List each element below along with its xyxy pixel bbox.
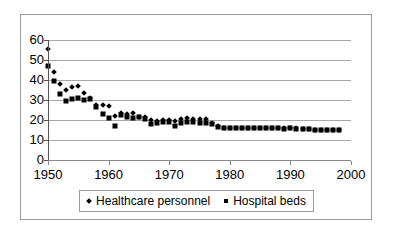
y-tick-mark xyxy=(44,120,48,121)
x-tick-label: 1950 xyxy=(34,168,63,182)
y-tick-label: 50 xyxy=(30,53,44,66)
chart-legend: Healthcare personnelHospital beds xyxy=(79,190,314,212)
data-point-square xyxy=(112,124,117,129)
data-point-diamond xyxy=(57,81,63,87)
y-gridline xyxy=(48,60,351,61)
y-gridline xyxy=(48,80,351,81)
data-point-square xyxy=(197,121,202,126)
x-tick-mark xyxy=(169,161,170,165)
legend-square-icon xyxy=(224,199,228,203)
legend-entry: Healthcare personnel xyxy=(87,195,210,207)
y-tick-mark xyxy=(44,60,48,61)
data-point-square xyxy=(300,127,305,132)
data-point-square xyxy=(118,113,123,118)
data-point-diamond xyxy=(75,83,81,89)
y-tick-mark xyxy=(44,140,48,141)
data-point-square xyxy=(282,127,287,132)
data-point-square xyxy=(106,116,111,121)
data-point-square xyxy=(52,79,57,84)
data-point-square xyxy=(318,128,323,133)
y-tick-label: 40 xyxy=(30,73,44,86)
legend-diamond-icon xyxy=(86,198,92,204)
y-gridline xyxy=(48,40,351,41)
x-tick-mark xyxy=(109,161,110,165)
data-point-square xyxy=(209,122,214,127)
data-point-diamond xyxy=(82,90,88,96)
data-point-square xyxy=(149,122,154,127)
data-point-square xyxy=(245,126,250,131)
x-tick-mark xyxy=(351,161,352,165)
data-point-square xyxy=(130,116,135,121)
y-axis-labels: 0102030405060 xyxy=(0,0,44,235)
legend-label: Hospital beds xyxy=(233,195,306,207)
x-tick-label: 1980 xyxy=(215,168,244,182)
data-point-square xyxy=(142,117,147,122)
data-point-square xyxy=(233,126,238,131)
data-point-square xyxy=(94,105,99,110)
x-tick-label: 1970 xyxy=(155,168,184,182)
data-point-diamond xyxy=(112,113,118,119)
x-axis-line xyxy=(48,160,351,161)
data-point-square xyxy=(227,126,232,131)
x-tick-label: 1990 xyxy=(276,168,305,182)
legend-entry: Hospital beds xyxy=(224,195,306,207)
y-gridline xyxy=(48,100,351,101)
data-point-diamond xyxy=(51,69,57,75)
data-point-square xyxy=(136,115,141,120)
data-point-diamond xyxy=(100,102,106,108)
x-tick-mark xyxy=(230,161,231,165)
data-point-square xyxy=(276,126,281,131)
y-tick-label: 30 xyxy=(30,93,44,106)
data-point-diamond xyxy=(106,103,112,109)
data-point-square xyxy=(288,126,293,131)
data-point-square xyxy=(185,120,190,125)
data-point-square xyxy=(336,128,341,133)
y-tick-mark xyxy=(44,80,48,81)
data-point-square xyxy=(124,115,129,120)
legend-label: Healthcare personnel xyxy=(96,195,210,207)
y-gridline xyxy=(48,140,351,141)
data-point-square xyxy=(173,124,178,129)
data-point-square xyxy=(258,126,263,131)
data-point-square xyxy=(324,128,329,133)
y-tick-label: 20 xyxy=(30,113,44,126)
data-point-square xyxy=(155,121,160,126)
data-point-square xyxy=(294,127,299,132)
x-tick-mark xyxy=(48,161,49,165)
data-point-square xyxy=(312,128,317,133)
data-point-square xyxy=(88,97,93,102)
y-axis-line xyxy=(48,40,49,161)
data-point-square xyxy=(167,120,172,125)
data-point-square xyxy=(215,125,220,130)
y-tick-mark xyxy=(44,100,48,101)
data-point-square xyxy=(270,126,275,131)
data-point-square xyxy=(221,126,226,131)
data-point-square xyxy=(161,120,166,125)
y-tick-label: 10 xyxy=(30,133,44,146)
data-point-square xyxy=(191,120,196,125)
data-point-square xyxy=(58,92,63,97)
data-point-square xyxy=(70,97,75,102)
y-tick-label: 60 xyxy=(30,33,44,46)
data-point-square xyxy=(264,126,269,131)
data-point-diamond xyxy=(63,87,69,93)
data-point-square xyxy=(100,112,105,117)
data-point-square xyxy=(76,96,81,101)
data-point-square xyxy=(82,98,87,103)
data-point-square xyxy=(306,127,311,132)
plot-area xyxy=(48,40,351,160)
x-tick-mark xyxy=(290,161,291,165)
chart-figure: 0102030405060 Healthcare personnelHospit… xyxy=(0,0,393,235)
data-point-square xyxy=(330,128,335,133)
data-point-square xyxy=(239,126,244,131)
data-point-square xyxy=(203,121,208,126)
data-point-square xyxy=(179,121,184,126)
data-point-square xyxy=(64,99,69,104)
data-point-square xyxy=(252,126,257,131)
x-tick-label: 2000 xyxy=(337,168,366,182)
y-tick-label: 0 xyxy=(37,153,44,166)
y-tick-mark xyxy=(44,40,48,41)
x-tick-label: 1960 xyxy=(94,168,123,182)
